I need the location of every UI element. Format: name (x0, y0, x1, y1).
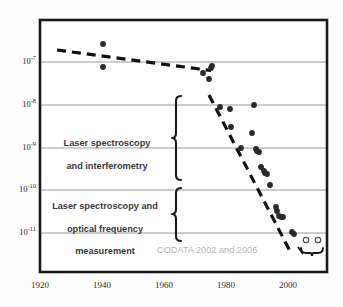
y-tick-label-1e-11: 10-11 (0, 228, 36, 237)
x-tick-label-1940: 1940 (81, 281, 123, 290)
x-tick-label-1980: 1980 (205, 281, 247, 290)
era-1-line-2: and interferometry (44, 161, 170, 172)
data-point (274, 208, 280, 214)
codata-2002-point (303, 237, 308, 242)
data-point (209, 63, 215, 69)
data-point (100, 41, 106, 47)
y-tick-label-1e-9: 10-9 (0, 143, 36, 152)
data-point (249, 130, 255, 136)
data-point (251, 102, 257, 108)
data-point (227, 106, 233, 112)
x-tick-label-1920: 1920 (19, 281, 61, 290)
era-2-line-1: Laser spectroscopy and (40, 201, 170, 212)
era-2-line-3: measurement (40, 246, 170, 257)
era-2-annotation: Laser spectroscopy and optical frequency… (40, 190, 170, 269)
era-1-line-1: Laser spectroscopy (44, 138, 170, 149)
data-point (217, 104, 223, 110)
data-point (206, 76, 212, 82)
y-tick-label-1e-8: 10-8 (0, 100, 36, 109)
y-tick-exponent: -11 (28, 225, 36, 232)
data-point (228, 124, 234, 130)
y-tick-label-1e-10: 10-10 (0, 185, 36, 194)
data-point (267, 182, 273, 188)
y-tick-exponent: -10 (27, 182, 36, 189)
data-point (256, 149, 262, 155)
y-tick-label-1e-7: 10-7 (0, 57, 36, 66)
data-point (264, 171, 270, 177)
y-tick-exponent: -9 (31, 140, 36, 147)
codata-note: CODATA 2002 and 2006 (157, 246, 257, 255)
y-tick-exponent: -7 (31, 54, 36, 61)
figure-container: 10-7 10-8 10-9 10-10 10-11 1920 1940 196… (0, 0, 343, 307)
data-point (100, 64, 106, 70)
x-tick-label-2000: 2000 (267, 281, 309, 290)
data-point (200, 70, 206, 76)
era-1-annotation: Laser spectroscopy and interferometry (44, 127, 170, 183)
codata-2006-point (315, 237, 320, 242)
era-2-line-2: optical frequency (40, 224, 170, 235)
data-point (291, 231, 297, 237)
x-tick-label-1960: 1960 (143, 281, 185, 290)
data-point (238, 145, 244, 151)
data-point (280, 214, 286, 220)
y-tick-exponent: -8 (31, 97, 36, 104)
